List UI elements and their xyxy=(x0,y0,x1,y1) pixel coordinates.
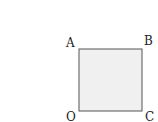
vertex-label-c: C xyxy=(145,110,154,122)
vertex-label-b: B xyxy=(144,34,153,48)
vertex-label-o: O xyxy=(66,110,76,122)
square-oabc xyxy=(79,49,142,111)
vertex-label-a: A xyxy=(65,36,75,50)
diagram-canvas: A B O C xyxy=(0,0,158,122)
